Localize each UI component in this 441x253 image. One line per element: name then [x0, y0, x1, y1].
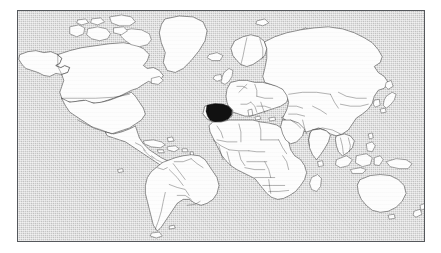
island-taiwan [368, 133, 373, 139]
landmass-asia [263, 27, 388, 136]
world-map-frame [17, 10, 425, 242]
island-bahamas [167, 137, 174, 142]
landmass-canada [56, 43, 163, 103]
landmass-scandinavia [231, 35, 267, 67]
island-sardinia-corsica [248, 109, 253, 116]
island-iceland [207, 53, 223, 61]
island-tasmania [388, 214, 395, 219]
island-arctic-small-a [91, 18, 105, 25]
landmass-australia [357, 175, 406, 213]
island-banks [70, 25, 85, 37]
landmass-india [309, 129, 331, 160]
island-great-britain [221, 69, 233, 85]
figure-canvas [0, 0, 441, 253]
peninsula-korea [373, 99, 380, 107]
island-japan [383, 92, 396, 108]
island-tierra-del-fuego [150, 232, 162, 238]
landmass-south-america [145, 155, 219, 231]
island-crete [269, 117, 276, 121]
island-ireland [213, 74, 222, 81]
island-new-guinea [386, 159, 412, 169]
island-new-zealand-south [413, 209, 422, 217]
island-falklands [169, 225, 175, 229]
highlighted-country-spain [206, 104, 232, 122]
island-sicily [255, 116, 261, 120]
island-svalbard [256, 19, 269, 26]
island-hispaniola [167, 146, 179, 152]
island-borneo [355, 154, 372, 167]
island-java [350, 168, 366, 174]
island-sulawesi [374, 156, 383, 166]
island-sumatra [335, 156, 352, 168]
landmass-greenland [159, 16, 207, 73]
island-cuba [143, 140, 165, 148]
island-arctic-small-b [77, 19, 89, 25]
island-victoria [87, 27, 111, 41]
island-madagascar [310, 175, 322, 192]
island-puerto-rico [182, 149, 188, 152]
island-jamaica [157, 150, 164, 153]
island-kyushu [380, 108, 386, 113]
island-new-zealand-north [420, 203, 424, 210]
island-ellesmere [110, 15, 136, 26]
island-galapagos [118, 169, 124, 173]
island-sri-lanka [318, 161, 324, 167]
island-philippines [366, 142, 375, 152]
landmass-indochina [335, 134, 354, 156]
world-map-svg [18, 11, 424, 241]
